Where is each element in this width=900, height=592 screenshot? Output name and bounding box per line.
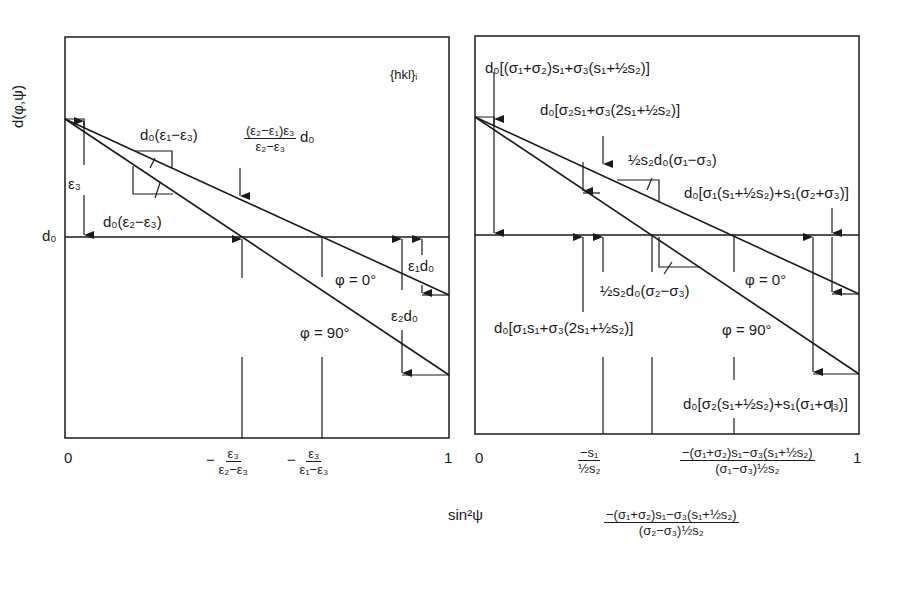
eps3-label: ε₃ (68, 176, 81, 191)
phi90-label-left: φ = 90° (300, 325, 350, 340)
gap-label: (ε₂−ε₁)ε₃ε₂−ε₃ d₀ (244, 124, 315, 153)
d0-label: d₀ (42, 228, 57, 243)
intercept-90-label: d₀[σ₂s₁+σ₃(2s₁+½s₂)] (540, 102, 680, 117)
slope-phi0-label: d₀(ε₁−ε₃) (140, 127, 198, 142)
x-tick-0-left: 0 (64, 450, 72, 465)
eps2d0-label: ε₂d₀ (391, 308, 418, 323)
phi90-label-right: φ = 90° (722, 322, 772, 337)
x-tick-c-right: −(σ₁+σ₂)s₁−σ₃(s₁+½s₂)(σ₁−σ₃)½s₂ (680, 446, 815, 475)
zero-label: d₀[σ₁s₁+σ₃(2s₁+½s₂)] (494, 320, 633, 335)
x-tick-a-left: − ε₃ε₂−ε₃ (206, 447, 248, 476)
x-tick-b-right: −(σ₁+σ₂)s₁−σ₃(s₁+½s₂)(σ₂−σ₃)½s₂ (604, 508, 739, 537)
slope-phi90-right-label: ½s₂d₀(σ₂−σ₃) (600, 283, 690, 298)
phi0-label-right: φ = 0° (745, 272, 786, 287)
intercept-top-label: d₀[(σ₁+σ₂)s₁+σ₃(s₁+½s₂)] (485, 60, 650, 75)
phi0-label-left: φ = 0° (335, 272, 376, 287)
x-axis-label: sin²ψ (448, 507, 483, 522)
slope-phi0-right-label: ½s₂d₀(σ₁−σ₃) (628, 152, 717, 167)
x-tick-1-left: 1 (444, 450, 452, 465)
diagram-canvas (0, 0, 900, 592)
x-tick-0-right: 0 (475, 450, 483, 465)
eps1d0-label: ε₁d₀ (408, 258, 434, 273)
end-phi0-label: d₀[σ₁(s₁+½s₂)+s₁(σ₂+σ₃)] (684, 185, 849, 200)
y-axis-label: d(φ,ψ) (10, 85, 25, 128)
x-tick-b-left: − ε₃ε₁−ε₃ (287, 447, 328, 476)
hkl-label: {hkl}ᵢ (390, 68, 417, 81)
phi90-line-left (65, 119, 449, 375)
x-tick-1-right: 1 (853, 450, 861, 465)
end-phi90-label: d₀[σ₂(s₁+½s₂)+s₁(σ₁+σ₃)] (683, 396, 848, 411)
slope-phi90-label: d₀(ε₂−ε₃) (103, 214, 162, 229)
x-tick-a-right: −s₁½s₂ (578, 446, 600, 475)
